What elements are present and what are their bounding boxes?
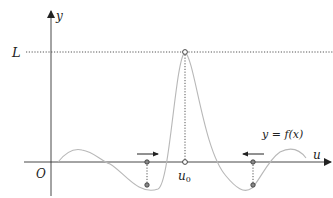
left-sample-curve-point	[145, 183, 149, 187]
curve-label: y = f(x)	[261, 128, 303, 141]
right-sample-axis-point	[251, 160, 255, 164]
u0-point	[183, 160, 188, 165]
peak-point	[183, 50, 188, 55]
y-axis-label: y	[55, 9, 63, 23]
limit-label: L	[11, 45, 21, 60]
u-axis-label: u	[313, 148, 321, 162]
right-sample-curve-point	[251, 183, 255, 187]
origin-label: O	[36, 167, 46, 181]
left-sample-axis-point	[145, 160, 149, 164]
u0-label: u0	[178, 169, 191, 184]
limit-diagram: y u O L u0 y = f(x)	[0, 0, 333, 198]
